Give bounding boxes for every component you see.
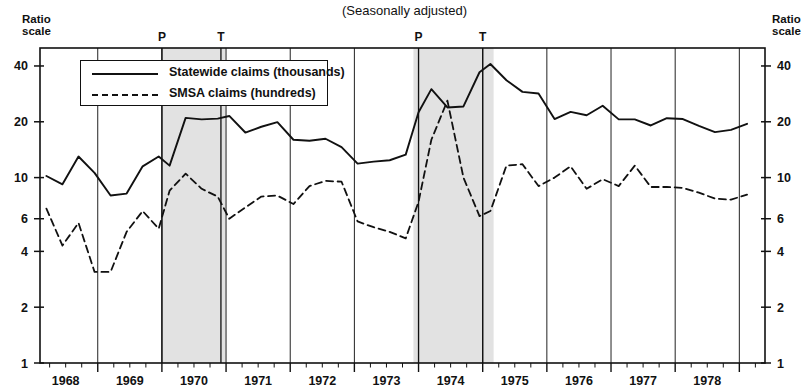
legend-label-smsa: SMSA claims (hundreds): [169, 86, 316, 100]
y-tick-label: 20: [777, 115, 791, 129]
y-tick-label: 6: [21, 212, 28, 226]
y-tick-label: 4: [777, 245, 784, 259]
legend-item-smsa: SMSA claims (hundreds): [81, 83, 329, 106]
x-tick-label: 1972: [308, 374, 336, 385]
y-tick-label: 6: [777, 212, 784, 226]
x-tick-label: 1968: [52, 374, 80, 385]
x-tick-label: 1969: [116, 374, 144, 385]
series-line-smsa: [46, 101, 747, 272]
cycle-marker-P: P: [415, 30, 423, 44]
y-tick-label: 2: [777, 301, 784, 315]
cycle-marker-T: T: [217, 30, 225, 44]
y-tick-label: 4: [21, 245, 28, 259]
x-tick-label: 1974: [437, 374, 465, 385]
chart-legend: Statewide claims (thousands) SMSA claims…: [80, 60, 328, 106]
cycle-marker-P: P: [158, 30, 166, 44]
x-tick-label: 1976: [565, 374, 593, 385]
y-tick-label: 10: [14, 171, 28, 185]
legend-swatch-dashed: [92, 94, 158, 98]
y-tick-label: 1: [777, 357, 784, 371]
x-tick-label: 1975: [501, 374, 529, 385]
x-tick-label: 1971: [244, 374, 272, 385]
plot-area: 1122446610102020404019681969197019711972…: [0, 0, 809, 385]
y-tick-label: 1: [21, 357, 28, 371]
plot-svg: 1122446610102020404019681969197019711972…: [0, 0, 809, 385]
y-tick-label: 40: [14, 59, 28, 73]
cycle-marker-T: T: [479, 30, 487, 44]
x-tick-label: 1977: [629, 374, 657, 385]
x-tick-label: 1978: [693, 374, 721, 385]
legend-label-statewide: Statewide claims (thousands): [169, 65, 345, 79]
recession-band-1: [413, 48, 493, 363]
x-tick-label: 1970: [180, 374, 208, 385]
y-tick-label: 2: [21, 301, 28, 315]
legend-swatch-solid: [92, 73, 158, 77]
y-tick-label: 40: [777, 59, 791, 73]
y-tick-label: 20: [14, 115, 28, 129]
y-tick-label: 10: [777, 171, 791, 185]
legend-item-statewide: Statewide claims (thousands): [81, 62, 329, 85]
chart-figure: (Seasonally adjusted) Ratio scale Ratio …: [0, 0, 809, 385]
x-tick-label: 1973: [373, 374, 401, 385]
